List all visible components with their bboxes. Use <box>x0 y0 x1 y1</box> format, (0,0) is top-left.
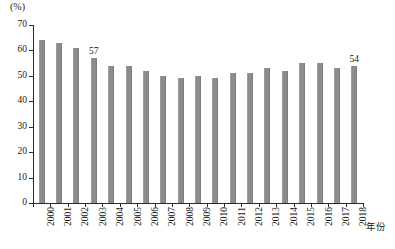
bar <box>91 58 97 203</box>
x-category-label: 2010 <box>219 207 229 226</box>
bar <box>126 66 132 203</box>
x-category-label: 2000 <box>46 207 56 226</box>
x-axis-title: 年份 <box>366 222 386 232</box>
x-category-label: 2017 <box>341 207 351 226</box>
x-axis-line <box>33 203 363 204</box>
bar <box>178 78 184 203</box>
x-category-label: 2015 <box>306 207 316 226</box>
x-category-label: 2006 <box>150 207 160 226</box>
bar <box>282 71 288 203</box>
bar <box>212 78 218 203</box>
bars-layer <box>33 25 363 203</box>
y-tick-label: 60 <box>3 46 27 56</box>
bar <box>56 43 62 203</box>
bar <box>334 68 340 203</box>
y-tick-label: 20 <box>3 147 27 157</box>
bar <box>247 73 253 203</box>
x-category-label: 2012 <box>254 207 264 226</box>
y-tick-label: 40 <box>3 97 27 107</box>
bar <box>160 76 166 203</box>
bar <box>230 73 236 203</box>
bar <box>143 71 149 203</box>
y-tick-label: 50 <box>3 71 27 81</box>
x-category-label: 2014 <box>289 207 299 226</box>
bar <box>351 66 357 203</box>
bar-chart: (%) 010203040506070 5754 200020012002200… <box>0 0 395 249</box>
y-tick-label: 70 <box>3 20 27 30</box>
x-category-label: 2009 <box>202 207 212 226</box>
bar <box>108 66 114 203</box>
x-axis-category-labels: 2000200120022003200420052006200720082009… <box>33 207 363 249</box>
x-category-label: 2003 <box>98 207 108 226</box>
x-category-label: 2004 <box>115 207 125 226</box>
bar <box>264 68 270 203</box>
x-category-label: 2007 <box>167 207 177 226</box>
bar-value-label: 57 <box>89 46 99 56</box>
x-category-label: 2002 <box>80 207 90 226</box>
bar <box>195 76 201 203</box>
y-tick-label: 10 <box>3 173 27 183</box>
bar <box>39 40 45 203</box>
x-category-label: 2016 <box>324 207 334 226</box>
x-category-label: 2001 <box>63 207 73 226</box>
bar <box>73 48 79 203</box>
bar <box>299 63 305 203</box>
x-category-label: 2011 <box>237 207 247 226</box>
y-tick-label: 0 <box>3 198 27 208</box>
y-tick-label: 30 <box>3 122 27 132</box>
y-axis-unit-label: (%) <box>10 1 25 13</box>
bar-value-label: 54 <box>350 54 360 64</box>
x-category-label: 2008 <box>185 207 195 226</box>
x-category-label: 2013 <box>271 207 281 226</box>
x-category-label: 2005 <box>133 207 143 226</box>
bar <box>317 63 323 203</box>
